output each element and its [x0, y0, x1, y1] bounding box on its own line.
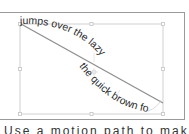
handle-bottom-center[interactable]	[90, 113, 93, 116]
handle-top-center[interactable]	[90, 23, 93, 26]
upper-path-text[interactable]: jumps over the lazy	[19, 14, 109, 58]
handle-bottom-left[interactable]	[19, 113, 22, 116]
handle-top-right[interactable]	[162, 23, 165, 26]
clipped-caption-text: Use a motion path to make the text	[4, 124, 189, 134]
handle-middle-left[interactable]	[19, 68, 22, 71]
path-end-arc	[148, 100, 161, 111]
text-on-path-stage: jumps over the lazy the quick brown fox	[0, 0, 189, 134]
canvas: jumps over the lazy the quick brown fox …	[0, 0, 189, 134]
handle-middle-right[interactable]	[162, 68, 165, 71]
handle-bottom-right[interactable]	[162, 113, 165, 116]
